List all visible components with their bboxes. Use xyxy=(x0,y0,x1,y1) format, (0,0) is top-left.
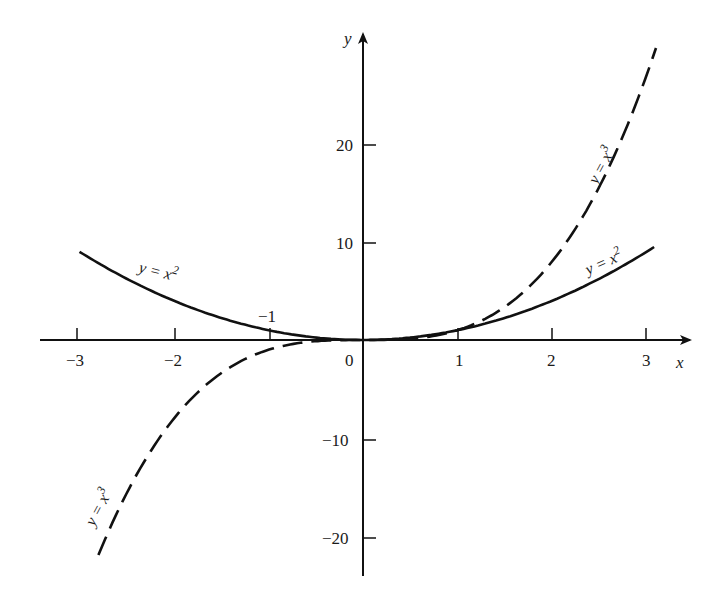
label-x-squared-left: y = x2 xyxy=(135,254,180,285)
y-tick-label: −10 xyxy=(322,431,349,450)
x-axis-label: x xyxy=(675,353,684,372)
y-tick-label: 20 xyxy=(336,136,353,155)
label-x-squared-right: y = x2 xyxy=(579,243,625,280)
label-x-cubed-left: y = x3 xyxy=(77,484,116,531)
y-tick-label: −20 xyxy=(322,529,349,548)
x-tick-label: 2 xyxy=(547,351,556,370)
x-ticks xyxy=(77,328,646,340)
origin-label: 0 xyxy=(345,351,354,370)
x-tick-label: 1 xyxy=(455,351,464,370)
y-axis-label: y xyxy=(342,29,352,48)
curve-x-squared xyxy=(80,247,655,340)
function-plot: −3 −2 −1 1 2 3 0 20 10 −10 −20 x y y = x… xyxy=(0,0,719,601)
curve-x-cubed xyxy=(98,48,656,555)
y-ticks xyxy=(363,145,376,538)
x-tick-label: −2 xyxy=(164,351,182,370)
label-x-cubed-right: y = x3 xyxy=(580,142,619,189)
x-tick-label: −1 xyxy=(258,307,276,326)
x-tick-label: −3 xyxy=(66,351,84,370)
x-tick-label: 3 xyxy=(642,351,651,370)
y-tick-label: 10 xyxy=(336,234,353,253)
